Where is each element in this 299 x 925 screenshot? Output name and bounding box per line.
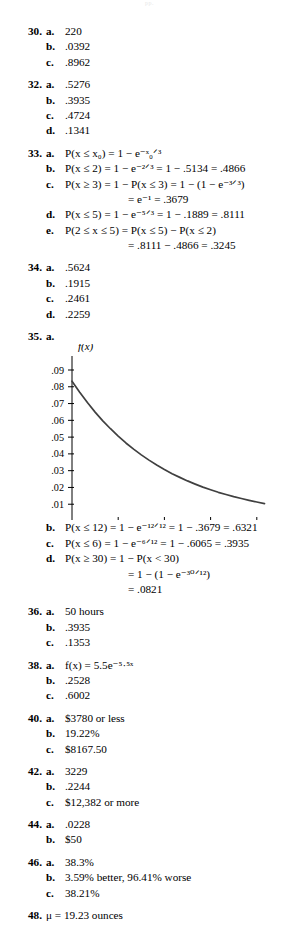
part-letter: d. xyxy=(46,307,59,322)
problem-number: 38. xyxy=(0,658,42,673)
y-tick-label: .08 xyxy=(51,382,64,393)
problem-number: 36. xyxy=(0,604,42,619)
part-letter: a. xyxy=(46,711,59,726)
part-value: .2259 xyxy=(65,307,90,322)
answer-line: c.P(x ≥ 3) = 1 − P(x ≤ 3) = 1 − (1 − e⁻³… xyxy=(0,177,299,192)
part-value: $12,382 or more xyxy=(65,795,139,810)
answer-continuation-line: = .0821 xyxy=(0,582,299,597)
part-letter: a. xyxy=(46,260,59,275)
answer-line: c..4724 xyxy=(0,108,299,123)
part-letter: a. xyxy=(46,329,59,344)
problem-number: 44. xyxy=(0,817,42,832)
answer-line: e.P(2 ≤ x ≤ 5) = P(x ≤ 5) − P(x ≤ 2) xyxy=(0,223,299,238)
part-letter: c. xyxy=(46,688,59,703)
part-letter: b. xyxy=(46,276,59,291)
answer-line: d..2259 xyxy=(0,307,299,322)
answer-line: b.3.59% better, 96.41% worse xyxy=(0,870,299,885)
part-value: 38.21% xyxy=(65,886,100,901)
part-value: μ = 19.23 ounces xyxy=(46,908,123,923)
answer-continuation-line: = .8111 − .4866 = .3245 xyxy=(0,238,299,253)
answer-line: b.19.22% xyxy=(0,726,299,741)
problem-number: 46. xyxy=(0,855,42,870)
part-letter: b. xyxy=(46,726,59,741)
continuation-value: = 1 − (1 − e⁻³⁰ᐟ¹²) xyxy=(128,567,210,582)
part-letter: c. xyxy=(46,742,59,757)
answer-line: b.P(x ≤ 12) = 1 − e⁻¹²ᐟ¹² = 1 − .3679 = … xyxy=(0,520,299,535)
y-tick-label: .01 xyxy=(51,499,64,510)
answer-line: 46.a.38.3% xyxy=(0,855,299,870)
problem-number: 35. xyxy=(0,329,42,344)
answer-line: c.P(x ≤ 6) = 1 − e⁻⁶ᐟ¹² = 1 − .6065 = .3… xyxy=(0,536,299,551)
answer-line: c..1353 xyxy=(0,635,299,650)
part-value: P(x ≤ 6) = 1 − e⁻⁶ᐟ¹² = 1 − .6065 = .393… xyxy=(65,536,249,551)
part-letter: e. xyxy=(46,223,59,238)
y-tick-label: .04 xyxy=(51,449,64,460)
part-value: .2461 xyxy=(65,291,90,306)
answer-continuation-line: = 1 − (1 − e⁻³⁰ᐟ¹²) xyxy=(0,567,299,582)
part-value: .0228 xyxy=(65,817,90,832)
problem-33: 33.a.P(x ≤ x₀) = 1 − e⁻ˣ₀ᐟ³b.P(x ≤ 2) = … xyxy=(0,146,299,254)
problem-number: 48. xyxy=(0,908,42,923)
answer-line: 48.μ = 19.23 ounces xyxy=(0,908,299,923)
answer-line: 30.a.220 xyxy=(0,24,299,39)
part-value: .3935 xyxy=(65,620,90,635)
part-value: .2244 xyxy=(65,779,90,794)
part-letter: b. xyxy=(46,832,59,847)
problem-36: 36.a.50 hoursb..3935c..1353 xyxy=(0,604,299,650)
answer-line: b.P(x ≤ 2) = 1 − e⁻²ᐟ³ = 1 − .5134 = .48… xyxy=(0,161,299,176)
answer-line: d..1341 xyxy=(0,123,299,138)
part-value: 38.3% xyxy=(65,855,94,870)
part-value: $3780 or less xyxy=(65,711,125,726)
part-letter: c. xyxy=(46,291,59,306)
part-value: .2528 xyxy=(65,673,90,688)
running-head: pp. xyxy=(0,0,299,7)
part-value: P(2 ≤ x ≤ 5) = P(x ≤ 5) − P(x ≤ 2) xyxy=(65,223,216,238)
answer-line: b..2244 xyxy=(0,779,299,794)
problem-35: 35.a..01.02.03.04.05.06.07.08.0906121824… xyxy=(0,329,299,597)
part-letter: d. xyxy=(46,551,59,566)
answer-line: 32.a..5276 xyxy=(0,77,299,92)
y-tick-label: .02 xyxy=(51,482,64,493)
part-value: P(x ≤ x₀) = 1 − e⁻ˣ₀ᐟ³ xyxy=(65,146,161,161)
part-letter: c. xyxy=(46,795,59,810)
answer-line: d.P(x ≤ 5) = 1 − e⁻⁵ᐟ³ = 1 − .1889 = .81… xyxy=(0,207,299,222)
part-letter: a. xyxy=(46,764,59,779)
answer-line: b..0392 xyxy=(0,39,299,54)
part-value: 3.59% better, 96.41% worse xyxy=(65,870,191,885)
problem-number: 42. xyxy=(0,764,42,779)
answer-line: c..2461 xyxy=(0,291,299,306)
answer-line: c..6002 xyxy=(0,688,299,703)
answer-continuation-line: = e⁻¹ = .3679 xyxy=(0,192,299,207)
y-tick-label: .09 xyxy=(51,365,64,376)
continuation-value: = .0821 xyxy=(128,582,162,597)
part-value: .1353 xyxy=(65,635,90,650)
part-letter: d. xyxy=(46,123,59,138)
problem-number: 40. xyxy=(0,711,42,726)
part-letter: c. xyxy=(46,886,59,901)
part-value: P(x ≥ 30) = 1 − P(x < 30) xyxy=(65,551,179,566)
answer-line: 35.a. xyxy=(0,329,299,344)
answer-line: c.38.21% xyxy=(0,886,299,901)
density-curve xyxy=(72,382,265,504)
part-letter: c. xyxy=(46,177,59,192)
part-value: f(x) = 5.5e⁻⁵·⁵ˣ xyxy=(65,658,133,673)
part-value: P(x ≤ 5) = 1 − e⁻⁵ᐟ³ = 1 − .1889 = .8111 xyxy=(65,207,245,222)
answers-list: 30.a.220b..0392c..896232.a..5276b..3935c… xyxy=(0,24,299,925)
answer-line: b..3935 xyxy=(0,93,299,108)
answer-line: 38.a.f(x) = 5.5e⁻⁵·⁵ˣ xyxy=(0,658,299,673)
part-value: .1341 xyxy=(65,123,90,138)
part-letter: c. xyxy=(46,635,59,650)
part-value: 220 xyxy=(65,24,82,39)
part-letter: d. xyxy=(46,207,59,222)
part-value: .6002 xyxy=(65,688,90,703)
problem-38: 38.a.f(x) = 5.5e⁻⁵·⁵ˣb..2528c..6002 xyxy=(0,658,299,704)
part-value: .3935 xyxy=(65,93,90,108)
part-letter: a. xyxy=(46,855,59,870)
continuation-value: = .8111 − .4866 = .3245 xyxy=(128,238,236,253)
answer-line: c.$12,382 or more xyxy=(0,795,299,810)
part-value: 19.22% xyxy=(65,726,100,741)
part-letter: b. xyxy=(46,673,59,688)
part-letter: b. xyxy=(46,39,59,54)
part-letter: b. xyxy=(46,870,59,885)
part-letter: b. xyxy=(46,93,59,108)
